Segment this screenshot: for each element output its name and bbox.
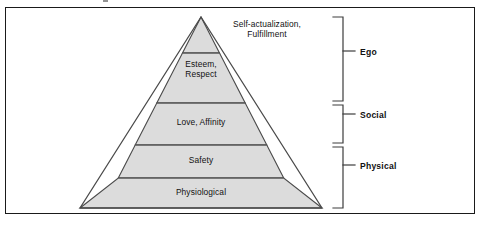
- bracket-ego: [333, 17, 355, 101]
- bracket-label-social: Social: [360, 110, 387, 120]
- bracket-physical: [333, 147, 355, 208]
- tier-shape-safety: [118, 145, 283, 178]
- tier-shape-esteem: [157, 53, 245, 103]
- tier-shape-physiological: [80, 178, 322, 208]
- pyramid-diagram: [0, 0, 483, 226]
- tier-shape-self-actualization: [183, 17, 220, 53]
- bracket-label-physical: Physical: [360, 161, 396, 171]
- grouping-brackets: [333, 17, 355, 208]
- bracket-label-ego: Ego: [360, 47, 377, 57]
- tier-shape-love-affinity: [135, 103, 267, 145]
- pyramid-tiers: [80, 17, 322, 208]
- bracket-social: [333, 105, 355, 143]
